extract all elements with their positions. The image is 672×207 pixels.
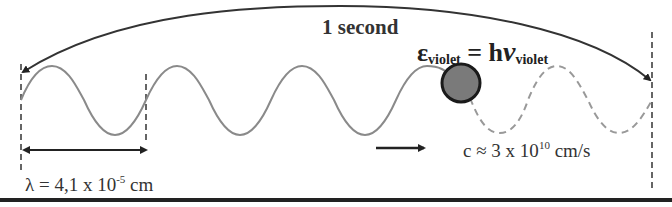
wavelength-label: λ = 4,1 x 10-5 cm	[25, 174, 153, 194]
energy-symbol: ε	[417, 38, 428, 67]
wavelength-value: λ = 4,1 x 10	[25, 174, 116, 195]
energy-equation: εviolet = hνviolet	[417, 38, 548, 67]
wavelength-exponent: -5	[116, 173, 125, 185]
speed-value: c ≈ 3 x 10	[463, 140, 539, 161]
energy-subscript: violet	[428, 52, 461, 67]
wavelength-unit: cm	[125, 174, 153, 195]
bottom-rule	[0, 198, 672, 202]
equals-h: = h	[467, 38, 503, 67]
speed-exponent: 10	[539, 139, 550, 151]
speed-unit: cm/s	[550, 140, 591, 161]
time-label: 1 second	[322, 17, 398, 38]
frequency-subscript: violet	[515, 52, 548, 67]
frequency-symbol: ν	[503, 36, 515, 67]
photon-ball	[442, 64, 480, 102]
solid-wave	[21, 66, 452, 135]
speed-label: c ≈ 3 x 1010 cm/s	[463, 140, 591, 160]
dashed-wave	[470, 66, 652, 133]
